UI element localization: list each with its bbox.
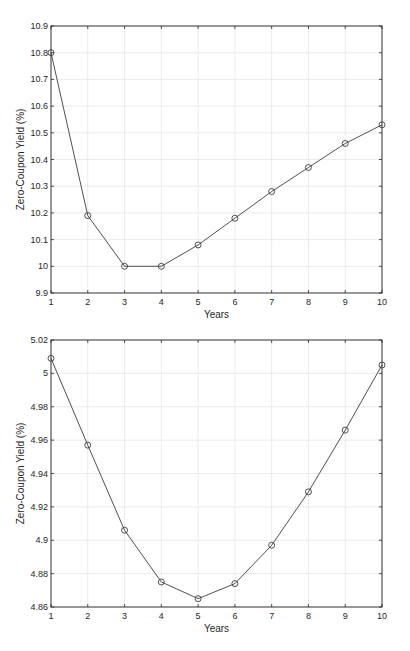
y-tick-label: 5.02 — [30, 335, 48, 345]
y-tick-label: 10.3 — [30, 181, 48, 191]
y-tick-label: 10.9 — [30, 21, 48, 31]
x-tick-label: 10 — [377, 297, 387, 307]
y-tick-label: 10.7 — [30, 74, 48, 84]
y-tick-label: 4.9 — [35, 535, 48, 545]
x-tick-label: 1 — [48, 611, 53, 621]
x-tick-label: 2 — [85, 297, 90, 307]
x-axis-label: Years — [204, 309, 229, 320]
x-tick-label: 8 — [306, 297, 311, 307]
y-tick-label: 10.4 — [30, 155, 48, 165]
figure: 12345678910Years9.91010.110.210.310.410.… — [0, 0, 410, 651]
y-tick-label: 10 — [38, 261, 48, 271]
y-tick-label: 4.88 — [30, 569, 48, 579]
y-tick-label: 4.92 — [30, 502, 48, 512]
x-tick-label: 2 — [85, 611, 90, 621]
x-tick-label: 8 — [306, 611, 311, 621]
x-tick-label: 4 — [159, 611, 164, 621]
x-tick-label: 9 — [343, 611, 348, 621]
y-tick-label: 5 — [43, 368, 48, 378]
x-tick-label: 7 — [269, 297, 274, 307]
x-tick-label: 10 — [377, 611, 387, 621]
y-tick-label: 10.8 — [30, 48, 48, 58]
x-tick-label: 6 — [232, 297, 237, 307]
x-tick-label: 3 — [122, 297, 127, 307]
y-tick-label: 4.98 — [30, 402, 48, 412]
x-tick-label: 4 — [159, 297, 164, 307]
y-tick-label: 10.1 — [30, 235, 48, 245]
x-tick-label: 5 — [196, 611, 201, 621]
y-tick-label: 10.6 — [30, 101, 48, 111]
y-axis-label: Zero-Coupon Yield (%) — [15, 109, 26, 211]
x-tick-label: 3 — [122, 611, 127, 621]
y-tick-label: 4.96 — [30, 435, 48, 445]
chart-2: 12345678910Years4.864.884.94.924.944.964… — [15, 335, 387, 634]
x-tick-label: 1 — [48, 297, 53, 307]
x-tick-label: 7 — [269, 611, 274, 621]
x-tick-label: 5 — [196, 297, 201, 307]
y-tick-label: 10.5 — [30, 128, 48, 138]
y-tick-label: 4.86 — [30, 602, 48, 612]
y-tick-label: 4.94 — [30, 469, 48, 479]
y-axis-label: Zero-Coupon Yield (%) — [15, 423, 26, 525]
x-axis-label: Years — [204, 623, 229, 634]
chart-1: 12345678910Years9.91010.110.210.310.410.… — [15, 21, 387, 320]
x-tick-label: 9 — [343, 297, 348, 307]
x-tick-label: 6 — [232, 611, 237, 621]
y-tick-label: 10.2 — [30, 208, 48, 218]
y-tick-label: 9.9 — [35, 288, 48, 298]
